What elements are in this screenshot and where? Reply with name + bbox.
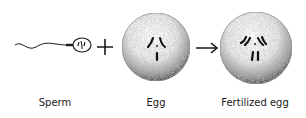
- plus-sign: [97, 39, 113, 55]
- fertilized-egg-cell: [220, 12, 292, 84]
- arrow-icon: [196, 43, 217, 53]
- fertilized-chromosome-5: [252, 52, 253, 60]
- fertilized-centriole: [254, 43, 256, 45]
- egg-cell: [122, 13, 190, 81]
- fertilized-egg-figure: [220, 12, 292, 84]
- label-egg: Egg: [146, 97, 165, 108]
- egg-figure: [122, 13, 190, 81]
- sperm-figure: [15, 38, 91, 52]
- egg-centriole: [156, 45, 158, 47]
- sperm-tail: [15, 43, 70, 48]
- label-fertilized-egg: Fertilized egg: [221, 97, 289, 108]
- label-sperm: Sperm: [39, 97, 72, 108]
